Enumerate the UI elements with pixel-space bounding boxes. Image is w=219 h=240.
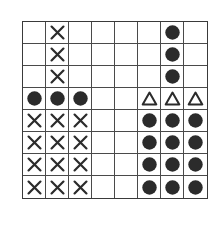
grid-cell-r1-c7 xyxy=(184,44,207,66)
grid-cell-r4-c1 xyxy=(46,110,69,132)
filled-circle-icon xyxy=(164,179,181,196)
grid-cell-r0-c0 xyxy=(23,22,46,44)
grid-cell-r1-c3 xyxy=(92,44,115,66)
grid-cell-r0-c6 xyxy=(161,22,184,44)
grid-cell-r1-c0 xyxy=(23,44,46,66)
grid-cell-r7-c5 xyxy=(138,176,161,198)
cross-icon xyxy=(72,156,89,173)
cross-icon xyxy=(72,134,89,151)
filled-circle-icon xyxy=(164,112,181,129)
cross-icon xyxy=(49,112,66,129)
grid-cell-r3-c3 xyxy=(92,88,115,110)
grid-cell-r2-c7 xyxy=(184,66,207,88)
symbol-grid xyxy=(22,21,208,199)
filled-circle-icon xyxy=(164,68,181,85)
grid-cell-r6-c4 xyxy=(115,154,138,176)
filled-circle-icon xyxy=(187,112,204,129)
triangle-icon xyxy=(187,90,204,107)
grid-cell-r2-c6 xyxy=(161,66,184,88)
grid-cell-r3-c7 xyxy=(184,88,207,110)
filled-circle-icon xyxy=(164,46,181,63)
grid-cell-r6-c1 xyxy=(46,154,69,176)
filled-circle-icon xyxy=(164,24,181,41)
filled-circle-icon xyxy=(187,156,204,173)
grid-cell-r0-c3 xyxy=(92,22,115,44)
cross-icon xyxy=(49,134,66,151)
grid-cell-r2-c5 xyxy=(138,66,161,88)
grid-cell-r2-c4 xyxy=(115,66,138,88)
grid-cell-r5-c7 xyxy=(184,132,207,154)
cross-icon xyxy=(49,46,66,63)
grid-cell-r0-c4 xyxy=(115,22,138,44)
filled-circle-icon xyxy=(141,179,158,196)
grid-cell-r1-c4 xyxy=(115,44,138,66)
grid-cell-r7-c4 xyxy=(115,176,138,198)
filled-circle-icon xyxy=(141,112,158,129)
grid-cell-r1-c2 xyxy=(69,44,92,66)
cross-icon xyxy=(26,112,43,129)
grid-cell-r4-c2 xyxy=(69,110,92,132)
grid-cell-r5-c0 xyxy=(23,132,46,154)
filled-circle-icon xyxy=(187,179,204,196)
grid-cell-r5-c4 xyxy=(115,132,138,154)
grid-cell-r1-c1 xyxy=(46,44,69,66)
grid-cell-r1-c5 xyxy=(138,44,161,66)
grid-cell-r6-c0 xyxy=(23,154,46,176)
grid-cell-r0-c2 xyxy=(69,22,92,44)
grid-cell-r6-c7 xyxy=(184,154,207,176)
grid-cell-r2-c3 xyxy=(92,66,115,88)
triangle-icon xyxy=(164,90,181,107)
grid-cell-r7-c6 xyxy=(161,176,184,198)
grid-cell-r2-c1 xyxy=(46,66,69,88)
grid-cell-r7-c3 xyxy=(92,176,115,198)
grid-cell-r5-c1 xyxy=(46,132,69,154)
grid-cell-r4-c7 xyxy=(184,110,207,132)
cross-icon xyxy=(72,179,89,196)
grid-cell-r3-c4 xyxy=(115,88,138,110)
grid-cell-r5-c5 xyxy=(138,132,161,154)
grid-cell-r7-c2 xyxy=(69,176,92,198)
cross-icon xyxy=(26,156,43,173)
filled-circle-icon xyxy=(72,90,89,107)
filled-circle-icon xyxy=(26,90,43,107)
grid-cell-r6-c5 xyxy=(138,154,161,176)
grid-cell-r7-c1 xyxy=(46,176,69,198)
cross-icon xyxy=(26,179,43,196)
grid-cell-r0-c7 xyxy=(184,22,207,44)
grid-cell-r5-c2 xyxy=(69,132,92,154)
filled-circle-icon xyxy=(141,156,158,173)
filled-circle-icon xyxy=(187,134,204,151)
grid-cell-r4-c6 xyxy=(161,110,184,132)
cross-icon xyxy=(49,179,66,196)
cross-icon xyxy=(72,112,89,129)
filled-circle-icon xyxy=(164,156,181,173)
grid-cell-r6-c2 xyxy=(69,154,92,176)
grid-cell-r3-c1 xyxy=(46,88,69,110)
grid-cell-r3-c0 xyxy=(23,88,46,110)
grid-cell-r7-c7 xyxy=(184,176,207,198)
filled-circle-icon xyxy=(49,90,66,107)
grid-cell-r4-c4 xyxy=(115,110,138,132)
grid-cell-r2-c0 xyxy=(23,66,46,88)
triangle-icon xyxy=(141,90,158,107)
grid-cell-r0-c5 xyxy=(138,22,161,44)
grid-cell-r4-c0 xyxy=(23,110,46,132)
grid-cell-r5-c6 xyxy=(161,132,184,154)
grid-cell-r2-c2 xyxy=(69,66,92,88)
cross-icon xyxy=(49,156,66,173)
grid-cell-r3-c6 xyxy=(161,88,184,110)
grid-cell-r6-c3 xyxy=(92,154,115,176)
grid-cell-r3-c2 xyxy=(69,88,92,110)
grid-cell-r4-c5 xyxy=(138,110,161,132)
cross-icon xyxy=(49,68,66,85)
grid-cell-r3-c5 xyxy=(138,88,161,110)
grid-cell-r1-c6 xyxy=(161,44,184,66)
cross-icon xyxy=(49,24,66,41)
grid-cell-r0-c1 xyxy=(46,22,69,44)
filled-circle-icon xyxy=(164,134,181,151)
grid-cell-r7-c0 xyxy=(23,176,46,198)
grid-cell-r6-c6 xyxy=(161,154,184,176)
filled-circle-icon xyxy=(141,134,158,151)
grid-cell-r4-c3 xyxy=(92,110,115,132)
grid-cell-r5-c3 xyxy=(92,132,115,154)
